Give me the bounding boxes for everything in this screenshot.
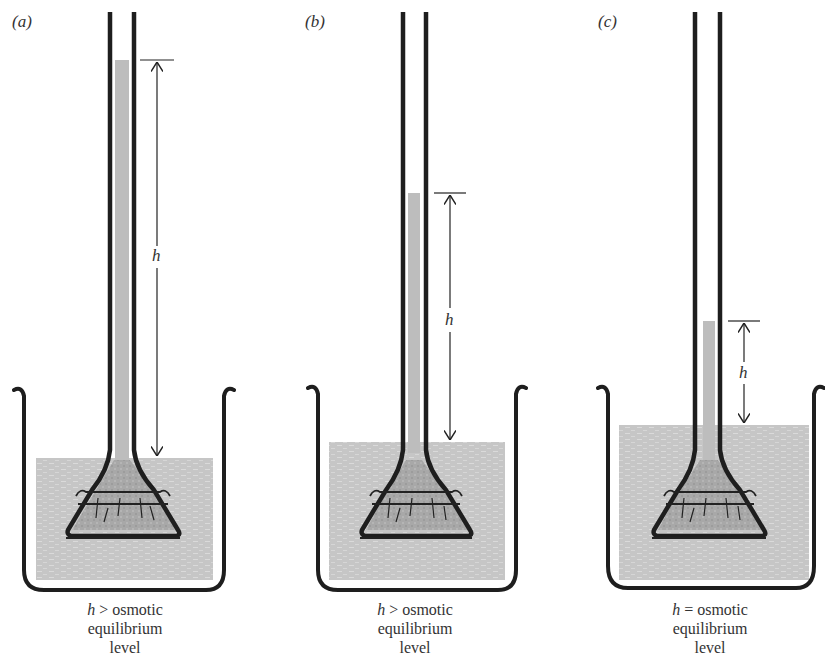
panel-label-a: (a) — [12, 12, 32, 32]
height-label-a: h — [151, 247, 162, 265]
caption-line-2: equilibrium — [35, 619, 215, 638]
caption-line-1: h = osmotic — [620, 600, 800, 619]
caption-line-3: level — [325, 638, 505, 657]
height-label-c: h — [738, 364, 749, 382]
caption-line-2: equilibrium — [325, 619, 505, 638]
caption-line-3: level — [35, 638, 215, 657]
panel-label-c: (c) — [598, 12, 617, 32]
caption-line-1: h > osmotic — [35, 600, 215, 619]
panel-label-b: (b) — [305, 12, 325, 32]
panel-a — [14, 12, 234, 590]
panel-c — [598, 12, 824, 588]
caption-b: h > osmotic equilibrium level — [325, 600, 505, 657]
solution-column — [115, 60, 129, 460]
caption-line-3: level — [620, 638, 800, 657]
solution-column — [408, 193, 420, 453]
height-label-b: h — [444, 311, 455, 329]
solution-column — [703, 321, 715, 461]
caption-a: h > osmotic equilibrium level — [35, 600, 215, 657]
caption-line-2: equilibrium — [620, 619, 800, 638]
caption-c: h = osmotic equilibrium level — [620, 600, 800, 657]
osmosis-diagram — [0, 0, 825, 665]
caption-line-1: h > osmotic — [325, 600, 505, 619]
panel-b — [308, 12, 526, 590]
